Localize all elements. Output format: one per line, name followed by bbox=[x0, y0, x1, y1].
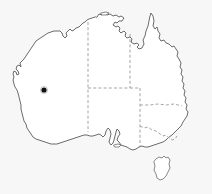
island-tasmania bbox=[154, 156, 170, 180]
australia-locality-map bbox=[0, 0, 212, 194]
australia-mainland-coastline bbox=[13, 13, 188, 150]
locality-marker-dot bbox=[41, 87, 46, 92]
island-kangaroo-island bbox=[114, 144, 121, 147]
map-canvas bbox=[0, 0, 212, 194]
